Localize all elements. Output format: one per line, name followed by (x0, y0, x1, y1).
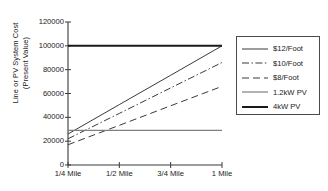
series-line (68, 86, 222, 144)
x-axis-tick-label: 1/2 Mile (106, 169, 133, 178)
x-axis-tick-label: 1/4 Mile (55, 169, 82, 178)
legend-label: $12/Foot (273, 44, 303, 53)
chart-legend: $12/Foot$10/Foot$8/Foot1.2kW PV4kW PV (236, 36, 320, 115)
chart-container: Line or PV System Cost (Present Value) 0… (0, 0, 328, 191)
series-line (68, 63, 222, 139)
legend-item[interactable]: 4kW PV (237, 99, 321, 114)
axis-lines (68, 22, 222, 165)
series-lines (68, 46, 222, 145)
legend-swatch-icon (242, 58, 268, 68)
legend-swatch-icon (242, 87, 268, 97)
legend-label: 4kW PV (273, 102, 300, 111)
x-axis-tick-label: 1 Mile (212, 169, 232, 178)
series-line (68, 46, 222, 134)
x-axis-tick-label: 3/4 Mile (157, 169, 184, 178)
legend-item[interactable]: $8/Foot (237, 70, 321, 85)
legend-item[interactable]: 1.2kW PV (237, 85, 321, 100)
axis-tick-marks (65, 22, 222, 168)
legend-item[interactable]: $12/Foot (237, 41, 321, 56)
legend-item[interactable]: $10/Foot (237, 56, 321, 71)
legend-swatch-icon (242, 102, 268, 112)
legend-label: 1.2kW PV (273, 88, 307, 97)
legend-label: $10/Foot (273, 59, 303, 68)
legend-swatch-icon (242, 73, 268, 83)
legend-label: $8/Foot (273, 73, 299, 82)
x-axis-tick-labels: 1/4 Mile1/2 Mile3/4 Mile1 Mile (0, 169, 328, 183)
legend-swatch-icon (242, 44, 268, 54)
